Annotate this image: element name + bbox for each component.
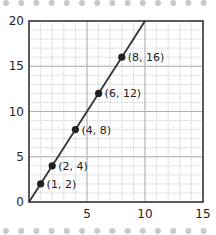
decor-dot-top [33, 0, 39, 6]
point-label: (4, 8) [81, 124, 111, 137]
decor-dot-top [201, 0, 207, 6]
decor-dot-bottom [185, 228, 191, 234]
decor-dot-top [170, 0, 176, 6]
decor-dot-top [3, 0, 9, 6]
decor-dot-bottom [155, 228, 161, 234]
decor-dot-top [49, 0, 55, 6]
decor-dot-bottom [140, 228, 146, 234]
data-point [72, 126, 79, 133]
decor-dot-bottom [94, 228, 100, 234]
decor-dot-bottom [49, 228, 55, 234]
point-label: (1, 2) [47, 178, 77, 191]
decor-dot-top [140, 0, 146, 6]
data-point [37, 180, 44, 187]
x-tick-label: 15 [195, 207, 210, 221]
decor-dot-bottom [64, 228, 70, 234]
decor-dot-bottom [79, 228, 85, 234]
decor-dot-bottom [201, 228, 207, 234]
y-tick-label: 5 [16, 150, 24, 164]
decor-dot-top [109, 0, 115, 6]
y-tick-label: 0 [16, 195, 24, 209]
point-label: (2, 4) [58, 160, 88, 173]
data-point [95, 90, 102, 97]
decor-dot-top [185, 0, 191, 6]
decor-dot-bottom [170, 228, 176, 234]
decor-dot-bottom [18, 228, 24, 234]
x-tick-label: 10 [137, 207, 152, 221]
point-label: (8, 16) [128, 51, 165, 64]
decor-dot-bottom [33, 228, 39, 234]
y-tick-label: 20 [9, 14, 24, 28]
decor-dot-top [79, 0, 85, 6]
data-point [49, 162, 56, 169]
decor-dot-top [18, 0, 24, 6]
y-tick-label: 15 [9, 59, 24, 73]
x-tick-label: 5 [83, 207, 91, 221]
decor-dot-bottom [125, 228, 131, 234]
decor-dot-top [64, 0, 70, 6]
decor-dot-bottom [3, 228, 9, 234]
decor-dot-top [155, 0, 161, 6]
data-point [118, 54, 125, 61]
y-tick-label: 10 [9, 105, 24, 119]
point-label: (6, 12) [105, 87, 142, 100]
decor-dot-bottom [109, 228, 115, 234]
decor-dot-top [125, 0, 131, 6]
decor-dot-top [94, 0, 100, 6]
line-chart: 0510152051015(1, 2)(2, 4)(4, 8)(6, 12)(8… [0, 0, 216, 235]
